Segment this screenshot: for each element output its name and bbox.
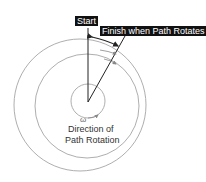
caption-line-1: Direction of [68, 124, 114, 135]
caption-line-2: Path Rotation [65, 135, 120, 146]
outer-circle [14, 39, 146, 171]
rotation-arc-arrow [92, 37, 118, 46]
finish-line [88, 36, 125, 102]
outer-path-arrow [100, 50, 116, 54]
finish-label: Finish when Path Rotates [100, 26, 206, 36]
start-label: Start [75, 16, 98, 26]
